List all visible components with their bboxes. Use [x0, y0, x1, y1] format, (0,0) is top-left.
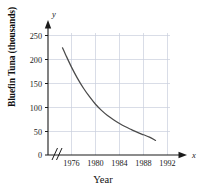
x-tick-label-1988: 1988 [135, 159, 151, 168]
y-tick-label-150: 150 [30, 80, 42, 89]
chart-canvas: 250 200 150 100 50 0 1976 1980 1984 1988… [0, 0, 206, 194]
y-axis-variable-label: y [51, 9, 56, 19]
x-tick-label-1984: 1984 [111, 159, 127, 168]
y-axis-title: Bluefin Tuna (thousands) [7, 0, 17, 127]
x-axis-title: Year [0, 174, 206, 185]
x-tick-label-1976: 1976 [63, 159, 79, 168]
x-axis-arrow [179, 152, 188, 158]
y-axis-arrow [45, 20, 51, 29]
chart-figure: Bluefin Tuna (thousands) Year [0, 0, 206, 194]
y-tick-label-0: 0 [38, 151, 42, 160]
plot-background [48, 30, 170, 155]
y-tick-label-100: 100 [30, 104, 42, 113]
x-tick-label-1992: 1992 [159, 159, 175, 168]
x-axis-variable-label: x [191, 150, 196, 160]
y-tick-label-50: 50 [34, 128, 42, 137]
x-tick-label-1980: 1980 [87, 159, 103, 168]
y-tick-label-250: 250 [30, 32, 42, 41]
y-tick-label-200: 200 [30, 56, 42, 65]
